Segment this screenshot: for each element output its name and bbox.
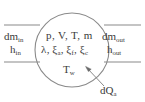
state-variables-secondary-label: λ, ξa, ξf, ξc [41, 44, 88, 55]
xi-c-subscript: c [85, 49, 88, 56]
xi-f-symbol: ξf [66, 43, 74, 55]
heat-flow-arrow-head [86, 66, 92, 71]
outlet-mass-flow-label: dmout [102, 31, 125, 42]
control-volume-diagram: dmin hin dmout hout p, V, T, m λ, ξa, ξf… [0, 0, 145, 102]
heat-flow-subscript: a [113, 90, 116, 97]
inlet-enthalpy-label: hin [10, 44, 21, 55]
wall-temperature-subscript: w [70, 69, 75, 76]
outlet-mass-flow-subscript: out [116, 36, 125, 43]
state-variables-primary-label: p, V, T, m [46, 30, 93, 41]
xi-c-symbol: ξc [80, 43, 89, 55]
wall-temperature-label: Tw [63, 64, 75, 75]
inlet-mass-flow-label: dmin [4, 31, 23, 42]
inlet-mass-flow-subscript: in [18, 36, 23, 43]
state-separator-3: , [74, 43, 80, 55]
outlet-enthalpy-label: hout [107, 44, 121, 55]
outlet-enthalpy-subscript: out [113, 49, 122, 56]
xi-a-symbol: ξa [52, 43, 61, 55]
inlet-enthalpy-subscript: in [16, 49, 21, 56]
heat-flow-label: dQa [100, 85, 116, 96]
